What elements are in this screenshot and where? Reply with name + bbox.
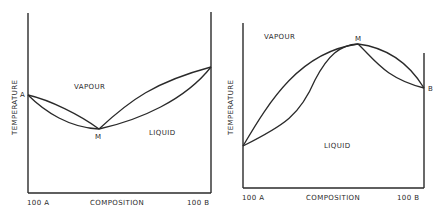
x-left-label: 100 A: [242, 194, 264, 202]
x-right-label: 100 B: [397, 194, 419, 202]
x-axis-label: COMPOSITION: [306, 194, 360, 202]
x-axis-label: COMPOSITION: [90, 199, 144, 207]
point-b: B: [428, 85, 433, 93]
y-axis-label: TEMPERATURE: [227, 80, 235, 136]
point-m: M: [355, 35, 361, 43]
point-a: A: [20, 91, 25, 99]
x-right-label: 100 B: [187, 199, 209, 207]
point-m: M: [95, 133, 101, 141]
azeotrope-diagrams: VAPOUR LIQUID A M TEMPERATURE 100 A COMP…: [0, 0, 435, 214]
vapour-curve-right: [99, 67, 211, 129]
vapour-curve-left: [28, 95, 99, 129]
vapour-curve-left: [243, 44, 358, 146]
x-left-label: 100 A: [27, 199, 49, 207]
region-liquid: LIQUID: [324, 142, 350, 150]
left-diagram: VAPOUR LIQUID A M TEMPERATURE 100 A COMP…: [11, 12, 211, 207]
liquid-curve-left: [243, 44, 358, 146]
liquid-curve-left: [28, 95, 99, 129]
y-axis-label: TEMPERATURE: [11, 80, 19, 136]
liquid-curve-right: [358, 44, 424, 88]
vapour-curve-right: [358, 44, 424, 88]
region-liquid: LIQUID: [149, 129, 175, 137]
region-vapour: VAPOUR: [74, 83, 105, 91]
right-diagram: VAPOUR LIQUID B M TEMPERATURE 100 A COMP…: [227, 23, 433, 202]
liquid-curve-right: [99, 67, 211, 129]
region-vapour: VAPOUR: [264, 33, 295, 41]
